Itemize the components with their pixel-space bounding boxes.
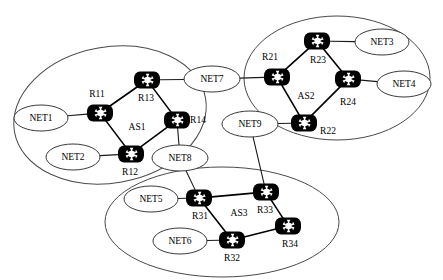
link-r11-r13 [109,86,138,107]
network-node-net1: NET1 [14,105,68,131]
link-r32-r34 [244,229,276,237]
router-node-r34: R34 [275,218,301,250]
network-node-net4: NET4 [377,71,431,97]
router-node-r21: R21 [262,52,290,85]
router-label: R33 [257,205,273,215]
as-label-as2: AS2 [298,91,315,101]
router-label: R11 [89,89,105,99]
network-node-net2: NET2 [46,144,100,170]
link-net1-r11 [68,114,88,116]
network-label: NET9 [238,119,261,129]
network-label: NET8 [168,153,191,163]
router-label: R22 [320,126,336,136]
router-label: R31 [192,211,208,221]
network-label: NET2 [61,152,84,162]
router-label: R24 [340,97,356,107]
network-label: NET6 [168,236,191,246]
router-label: R12 [122,167,138,177]
network-label: NET5 [139,194,162,204]
router-label: R32 [224,253,240,263]
link-net4-r24 [361,80,378,81]
network-node-net7: NET7 [184,66,240,92]
network-topology-diagram: NET1NET2NET3NET4NET5NET6NET7NET8NET9 R11… [0,0,443,280]
link-r11-r12 [106,121,125,147]
network-group: NET1NET2NET3NET4NET5NET6NET7NET8NET9 [14,29,431,254]
router-node-r33: R33 [253,184,279,216]
router-node-r14: R14 [164,112,206,129]
router-node-r11: R11 [87,89,113,121]
router-label: R13 [138,93,154,103]
network-node-net5: NET5 [124,186,178,212]
link-net7-r21 [240,77,264,78]
router-node-r12: R12 [118,146,144,178]
as-label-as1: AS1 [129,122,146,132]
link-r21-r23 [285,48,310,70]
router-label: R34 [282,239,298,249]
network-node-net6: NET6 [153,228,207,254]
router-node-r23: R23 [304,33,330,66]
router-label: R14 [190,115,206,125]
diagram-canvas: NET1NET2NET3NET4NET5NET6NET7NET8NET9 R11… [0,0,443,280]
network-node-net8: NET8 [152,145,208,171]
network-label: NET7 [200,74,223,84]
link-r23-r24 [323,48,342,71]
link-r31-r33 [212,193,253,197]
network-label: NET4 [392,79,415,89]
network-node-net3: NET3 [355,29,409,55]
link-net8-r14 [178,128,179,145]
as-boundary-as3 [105,167,339,277]
router-node-r32: R32 [219,232,245,264]
link-net8-r31 [186,171,195,190]
router-node-r22: R22 [291,115,336,137]
router-label: R21 [262,52,278,62]
as-label-as3: AS3 [231,208,248,218]
link-net9-r33 [253,137,264,184]
router-node-r31: R31 [186,190,212,222]
link-r13-r14 [153,88,172,113]
router-label: R23 [310,55,326,65]
network-node-net9: NET9 [222,111,278,137]
link-net2-r12 [100,155,118,156]
network-label: NET1 [29,113,52,123]
link-r31-r32 [205,206,226,233]
link-r22-r24 [311,86,341,116]
router-node-r13: R13 [134,72,160,104]
network-label: NET3 [370,37,393,47]
